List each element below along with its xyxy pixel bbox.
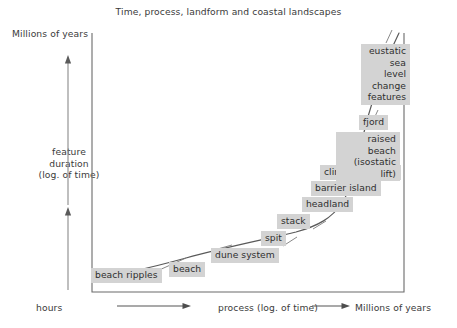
- data-label-stack[interactable]: stack: [277, 214, 310, 229]
- data-label-dune-system[interactable]: dune system: [211, 248, 279, 263]
- data-label-beach-ripples[interactable]: beach ripples: [91, 268, 162, 283]
- data-label-barrier-island[interactable]: barrier island: [311, 181, 381, 196]
- data-label-fjord[interactable]: fjord: [359, 115, 388, 130]
- y-axis-arrow-lower: [65, 207, 71, 290]
- data-label-eustatic-line1: eustatic sea: [369, 45, 406, 68]
- leader-eustatic: [386, 30, 392, 43]
- x-axis-arrow-left: [117, 303, 191, 309]
- y-axis-arrow: [65, 55, 71, 205]
- data-label-headland[interactable]: headland: [302, 197, 353, 212]
- data-label-eustatic-line3: features: [368, 91, 406, 102]
- data-label-raised-beach-line1: raised beach: [367, 133, 396, 156]
- data-label-beach[interactable]: beach: [169, 262, 205, 277]
- data-label-raised-beach-line2: (isostatic lift): [354, 156, 396, 179]
- data-label-spit[interactable]: spit: [261, 231, 286, 246]
- x-axis-arrow-right: [312, 303, 350, 309]
- data-label-raised-beach[interactable]: raised beach (isostatic lift): [336, 132, 400, 181]
- chart-figure: Time, process, landform and coastal land…: [0, 0, 457, 328]
- data-label-eustatic-sea-level-change[interactable]: eustatic sea level change features: [361, 44, 410, 105]
- data-label-eustatic-line2: level change: [372, 68, 406, 91]
